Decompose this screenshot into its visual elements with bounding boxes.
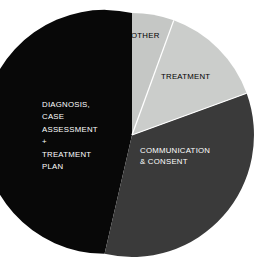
pie-chart-canvas [0, 0, 260, 268]
pie-slices [0, 10, 254, 257]
pie-slice-diagnosis[interactable] [0, 10, 132, 254]
pie-chart: OTHER TREATMENT COMMUNICATION & CONSENT … [0, 0, 260, 268]
